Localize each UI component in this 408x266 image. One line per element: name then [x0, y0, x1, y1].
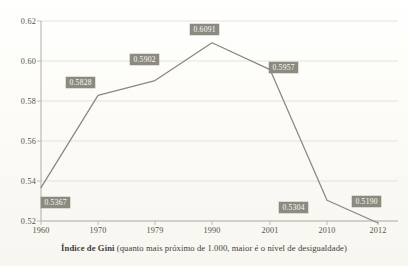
- x-tick-marks: [41, 221, 378, 225]
- caption-rest: (quanto mais próximo de 1.000, maior é o…: [115, 243, 347, 253]
- y-tick-label: 0.56: [8, 137, 36, 146]
- gini-data-line: [41, 43, 378, 223]
- y-tick-marks: [37, 21, 41, 221]
- y-tick-label: 0.58: [8, 97, 36, 106]
- data-point-label: 0.5957: [269, 62, 298, 73]
- caption-lead: Índice de Gini: [61, 243, 114, 253]
- data-point-label: 0.5828: [66, 77, 95, 88]
- x-tick-label: 2001: [250, 226, 290, 235]
- chart-caption: Índice de Gini (quanto mais próximo de 1…: [0, 243, 408, 253]
- data-point-label: 0.5902: [130, 54, 159, 65]
- data-point-label: 0.5190: [352, 196, 381, 207]
- data-point-label: 0.6091: [190, 24, 219, 35]
- x-tick-label: 1960: [21, 226, 61, 235]
- x-tick-label: 1979: [135, 226, 175, 235]
- data-point-label: 0.5304: [279, 202, 308, 213]
- gridlines: [41, 21, 398, 221]
- y-tick-label: 0.60: [8, 57, 36, 66]
- x-tick-label: 1990: [192, 226, 232, 235]
- y-tick-label: 0.52: [8, 217, 36, 226]
- gini-line-chart: 0.62 0.60 0.58 0.56 0.54 0.52 1960 1970 …: [0, 0, 408, 266]
- y-tick-label: 0.54: [8, 177, 36, 186]
- x-tick-label: 2012: [358, 226, 398, 235]
- chart-page: 0.62 0.60 0.58 0.56 0.54 0.52 1960 1970 …: [0, 0, 408, 266]
- x-tick-label: 1970: [78, 226, 118, 235]
- data-point-label: 0.5367: [41, 197, 70, 208]
- x-tick-label: 2010: [307, 226, 347, 235]
- y-tick-label: 0.62: [8, 17, 36, 26]
